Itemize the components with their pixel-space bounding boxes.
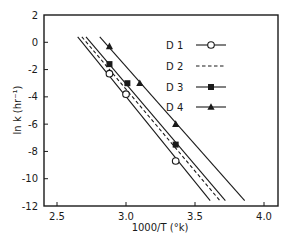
filled-triangle-marker — [106, 43, 113, 50]
legend-label: D 4 — [166, 102, 183, 113]
open-circle-marker — [123, 91, 130, 98]
y-tick-label: -2 — [28, 64, 38, 75]
y-tick-label: -8 — [28, 146, 38, 157]
filled-square-marker — [208, 84, 214, 90]
arrhenius-chart: 20-2-4-6-8-10-122.53.03.54.0 D 1D 2D 3D … — [0, 0, 290, 242]
x-tick-label: 3.5 — [187, 211, 203, 222]
filled-triangle-marker — [172, 120, 179, 127]
axis-ticks: 20-2-4-6-8-10-122.53.03.54.0 — [22, 10, 272, 223]
series-lines — [78, 37, 245, 201]
legend-label: D 3 — [166, 82, 183, 93]
filled-square-marker — [124, 80, 130, 86]
x-axis-label: 1000/T (°k) — [132, 222, 189, 233]
filled-square-marker — [106, 61, 112, 67]
open-circle-marker — [208, 42, 215, 49]
series-line-d2 — [82, 37, 220, 201]
y-tick-label: -4 — [28, 91, 38, 102]
legend-label: D 2 — [166, 61, 183, 72]
series-line-d1 — [78, 37, 210, 201]
filled-triangle-marker — [136, 79, 143, 86]
plot-frame — [44, 15, 278, 206]
y-tick-label: 0 — [32, 37, 38, 48]
y-tick-label: -10 — [22, 173, 38, 184]
x-tick-label: 4.0 — [256, 211, 272, 222]
legend-label: D 1 — [166, 40, 183, 51]
open-circle-marker — [172, 158, 179, 165]
x-tick-label: 2.5 — [49, 211, 65, 222]
y-tick-label: -12 — [22, 201, 38, 212]
filled-square-marker — [173, 142, 179, 148]
y-tick-label: -6 — [28, 119, 38, 130]
y-tick-label: 2 — [32, 10, 38, 21]
plot-border — [44, 15, 278, 206]
x-tick-label: 3.0 — [118, 211, 134, 222]
open-circle-marker — [106, 70, 113, 77]
legend: D 1D 2D 3D 4 — [166, 40, 226, 113]
y-axis-label: ln k (hr⁻¹) — [12, 86, 23, 135]
